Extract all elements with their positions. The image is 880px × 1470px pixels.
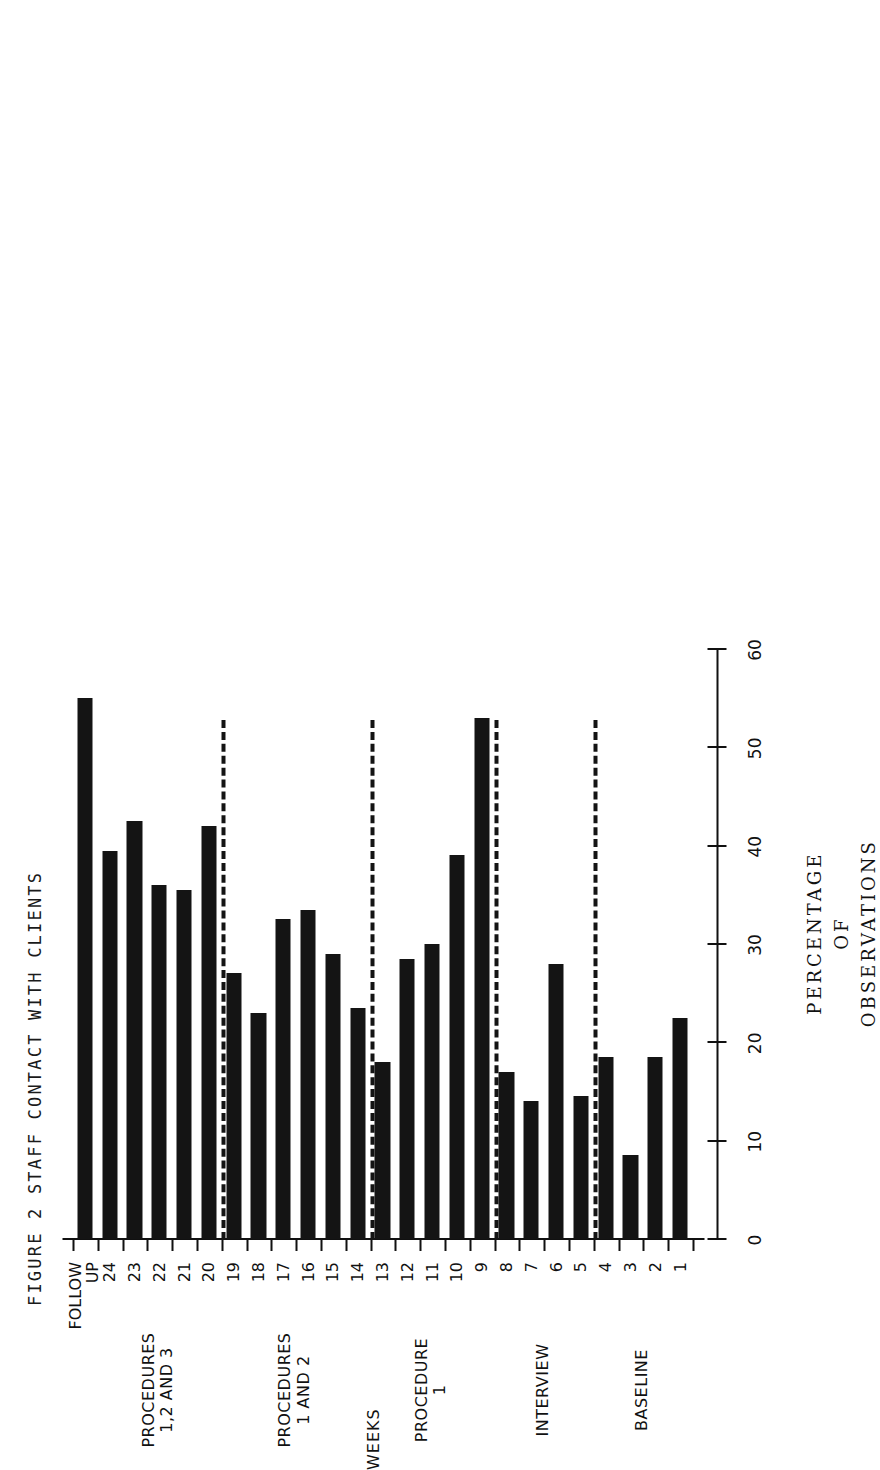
bar bbox=[374, 1062, 389, 1239]
bar bbox=[300, 910, 315, 1239]
value-tick bbox=[707, 845, 726, 847]
value-tick bbox=[707, 648, 726, 650]
category-label: 16 bbox=[298, 1262, 317, 1282]
value-tick bbox=[707, 1140, 726, 1142]
category-tick bbox=[270, 1238, 272, 1251]
phase-label: PROCEDURES1,2 AND 3 bbox=[139, 1332, 176, 1447]
bar bbox=[275, 919, 290, 1239]
category-label: 19 bbox=[224, 1262, 243, 1282]
category-label: 18 bbox=[249, 1262, 268, 1282]
category-label: 23 bbox=[125, 1262, 144, 1282]
phase-divider bbox=[593, 720, 597, 1240]
bar bbox=[449, 856, 464, 1240]
phase-label: BASELINE bbox=[632, 1349, 650, 1431]
value-tick-label: 60 bbox=[744, 639, 764, 661]
phase-divider bbox=[494, 720, 498, 1240]
category-tick bbox=[692, 1238, 694, 1251]
bar bbox=[201, 826, 216, 1239]
bar bbox=[77, 698, 92, 1239]
bar bbox=[523, 1101, 538, 1239]
value-tick bbox=[707, 746, 726, 748]
category-label: FOLLOWUP bbox=[68, 1262, 102, 1329]
category-tick bbox=[196, 1238, 198, 1251]
category-axis-title: WEEKS bbox=[363, 1408, 382, 1470]
category-label: 21 bbox=[174, 1262, 193, 1282]
bar bbox=[548, 964, 563, 1239]
category-tick bbox=[345, 1238, 347, 1251]
category-tick bbox=[543, 1238, 545, 1251]
bar bbox=[647, 1057, 662, 1239]
category-tick bbox=[667, 1238, 669, 1251]
value-tick bbox=[707, 1041, 726, 1043]
value-tick bbox=[707, 1238, 726, 1240]
phase-divider bbox=[221, 720, 225, 1240]
category-tick bbox=[394, 1238, 396, 1251]
bar bbox=[102, 851, 117, 1239]
category-label: 24 bbox=[100, 1262, 119, 1282]
category-label: 8 bbox=[497, 1262, 516, 1272]
value-tick-label: 50 bbox=[744, 738, 764, 760]
category-label: 3 bbox=[621, 1262, 640, 1272]
phase-label: PROCEDURES1 AND 2 bbox=[275, 1332, 312, 1447]
category-label: 15 bbox=[323, 1262, 342, 1282]
bar bbox=[399, 959, 414, 1239]
bar bbox=[672, 1018, 687, 1239]
bar bbox=[176, 890, 191, 1239]
bar bbox=[226, 974, 241, 1240]
bar-chart-plot-area: 0102030405060 12345678910111213141516171… bbox=[72, 650, 692, 1240]
bar bbox=[151, 885, 166, 1239]
category-label: 20 bbox=[199, 1262, 218, 1282]
category-label: 4 bbox=[596, 1262, 615, 1272]
category-tick bbox=[246, 1238, 248, 1251]
category-label: 10 bbox=[447, 1262, 466, 1282]
category-tick bbox=[568, 1238, 570, 1251]
category-tick bbox=[419, 1238, 421, 1251]
phase-divider bbox=[370, 720, 374, 1240]
phase-label: INTERVIEW bbox=[533, 1344, 551, 1437]
figure-title: FIGURE 2 STAFF CONTACT WITH CLIENTS bbox=[24, 871, 44, 1306]
category-tick bbox=[97, 1238, 99, 1251]
category-tick bbox=[444, 1238, 446, 1251]
bar bbox=[350, 1008, 365, 1239]
category-label: 11 bbox=[422, 1262, 441, 1282]
category-tick bbox=[618, 1238, 620, 1251]
category-label: 13 bbox=[373, 1262, 392, 1282]
value-tick-label: 40 bbox=[744, 836, 764, 858]
bar bbox=[325, 954, 340, 1239]
value-tick bbox=[707, 943, 726, 945]
bar bbox=[498, 1072, 513, 1239]
bar bbox=[474, 718, 489, 1239]
category-label: 5 bbox=[571, 1262, 590, 1272]
bar bbox=[598, 1057, 613, 1239]
category-tick bbox=[295, 1238, 297, 1251]
category-tick bbox=[72, 1238, 74, 1251]
bar bbox=[622, 1155, 637, 1239]
value-tick-label: 0 bbox=[744, 1235, 764, 1246]
category-tick bbox=[171, 1238, 173, 1251]
category-label: 6 bbox=[546, 1262, 565, 1272]
bar bbox=[573, 1096, 588, 1239]
category-label: 7 bbox=[521, 1262, 540, 1272]
category-label: 2 bbox=[645, 1262, 664, 1272]
category-tick bbox=[469, 1238, 471, 1251]
value-tick-label: 30 bbox=[744, 934, 764, 956]
bar bbox=[424, 944, 439, 1239]
category-tick bbox=[320, 1238, 322, 1251]
value-tick-label: 20 bbox=[744, 1033, 764, 1055]
value-tick-label: 10 bbox=[744, 1131, 764, 1153]
category-label: 12 bbox=[397, 1262, 416, 1282]
category-label: 22 bbox=[149, 1262, 168, 1282]
category-tick bbox=[146, 1238, 148, 1251]
category-label: 14 bbox=[348, 1262, 367, 1282]
category-tick bbox=[122, 1238, 124, 1251]
category-tick bbox=[518, 1238, 520, 1251]
phase-label: PROCEDURE1 bbox=[412, 1338, 449, 1442]
category-label: 17 bbox=[273, 1262, 292, 1282]
bar bbox=[250, 1013, 265, 1239]
bar bbox=[126, 821, 141, 1239]
category-label: 1 bbox=[670, 1262, 689, 1272]
value-axis-title: PERCENTAGEOFOBSERVATIONS bbox=[800, 839, 880, 1027]
category-tick bbox=[642, 1238, 644, 1251]
category-label: 9 bbox=[472, 1262, 491, 1272]
